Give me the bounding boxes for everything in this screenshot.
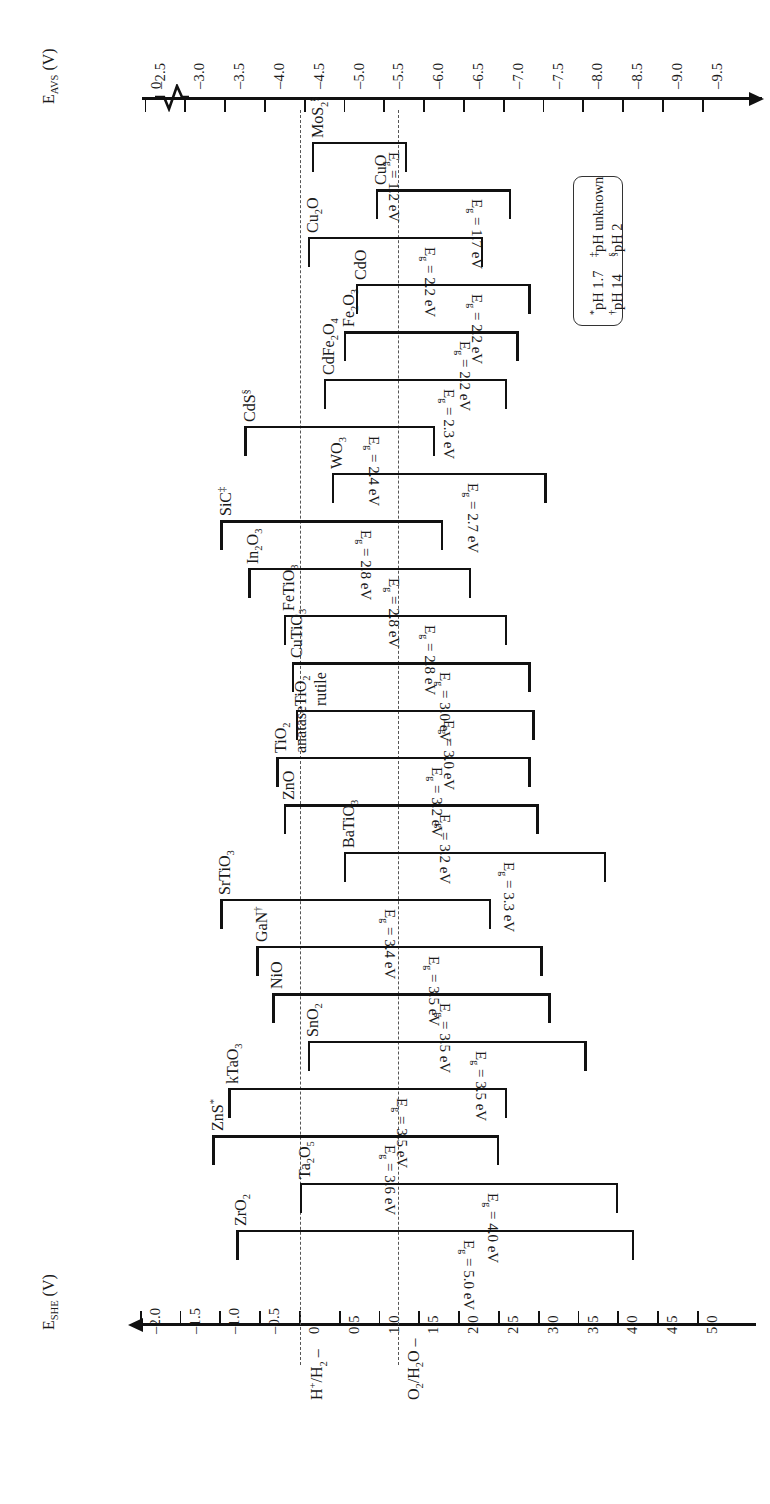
bottom-axis-tick-label: 2.5 (505, 1315, 522, 1334)
band-rail (284, 615, 507, 617)
band-material-label: Ta2O5 (296, 1141, 316, 1179)
band-rail (292, 662, 531, 664)
band-rail (344, 852, 607, 854)
bottom-axis-tick-label: –2.0 (147, 1308, 164, 1334)
valence-band-edge-stub (540, 946, 542, 976)
bottom-axis-tick (578, 1311, 580, 1324)
valence-band-edge-stub (548, 993, 550, 1023)
top-axis-tick-label: –3.5 (231, 63, 248, 89)
bottom-axis-tick-label: –1.0 (226, 1308, 243, 1334)
band-material-label: CdO (352, 250, 370, 280)
valence-band-edge-stub (528, 662, 530, 692)
top-axis-tick (224, 99, 226, 112)
conduction-band-edge-stub (344, 331, 346, 361)
legend-item: §pH 2 (607, 223, 626, 257)
band-material-label: GaN† (252, 907, 271, 942)
top-axis-tick (344, 99, 346, 112)
band-rail (308, 1041, 587, 1043)
top-axis-tick (622, 99, 624, 112)
top-axis-tick (383, 99, 385, 112)
top-axis-tick (702, 99, 704, 112)
legend-item: ‡pH unknown (588, 177, 607, 257)
conduction-band-edge-stub (312, 142, 314, 172)
top-axis-tick-label: –6.0 (430, 63, 447, 89)
band-gap-label: Eg = 3.3 eV (498, 862, 517, 932)
oxygen-redox-line (398, 110, 399, 1365)
band-gap-label: Eg = 3.5 eV (470, 1051, 489, 1121)
valence-band-edge-stub (505, 615, 507, 645)
conduction-band-edge-stub (284, 615, 286, 645)
valence-band-edge-stub (532, 710, 534, 740)
band-material-label: In2O3 (244, 528, 264, 563)
band-gap-label: Eg = 2.4 eV (363, 436, 382, 506)
bottom-axis-tick (140, 1311, 142, 1324)
band-gap-label: Eg = 2.3 eV (438, 389, 457, 459)
band-material-label: CdFe2O4 (320, 318, 340, 375)
conduction-band-edge-stub (344, 852, 346, 882)
band-rail (332, 473, 547, 475)
top-axis-tick (662, 99, 664, 112)
top-axis-title: EAVS (V) (40, 48, 60, 104)
bottom-axis-tick-label: 5.0 (704, 1315, 721, 1334)
top-axis-tick-label: –5.5 (390, 63, 407, 89)
conduction-band-edge-stub (220, 899, 222, 929)
band-gap-label: Eg = 2.8 eV (383, 578, 402, 648)
conduction-band-edge-stub (256, 946, 258, 976)
band-material-label: BaTiO3 (340, 799, 360, 847)
valence-band-edge-stub (528, 757, 530, 787)
bottom-axis-tick (379, 1311, 381, 1324)
conduction-band-edge-stub (376, 189, 378, 219)
band-rail (228, 1088, 507, 1090)
bottom-axis-tick (697, 1311, 699, 1324)
top-axis-tick-label: –9.5 (709, 63, 726, 89)
band-material-label: SiC‡ (216, 487, 235, 516)
band-rail (256, 946, 543, 948)
valence-band-edge-stub (505, 1088, 507, 1118)
band-material-label: Cu2O (304, 197, 324, 232)
band-rail (220, 520, 443, 522)
band-rail (344, 331, 519, 333)
bottom-axis-tick-label: 3.5 (585, 1315, 602, 1334)
valence-band-edge-stub (536, 804, 538, 834)
hydrogen-redox-label: H+/H2 – (307, 1349, 329, 1400)
top-axis-tick-label: –8.5 (629, 63, 646, 89)
valence-band-edge-stub (632, 1230, 634, 1260)
conduction-band-edge-stub (236, 1230, 238, 1260)
bottom-axis-tick (180, 1311, 182, 1324)
band-gap-label: Eg = 4.0 eV (482, 1193, 501, 1263)
band-material-label: CuTiO3 (288, 609, 308, 658)
conduction-band-edge-stub (276, 757, 278, 787)
conduction-band-edge-stub (228, 1088, 230, 1118)
band-material-label: ZnS* (208, 1099, 227, 1131)
band-rail (376, 189, 511, 191)
top-axis-line (142, 97, 762, 100)
band-gap-label: Eg = 2.2 eV (419, 247, 438, 317)
band-rail (244, 426, 435, 428)
band-material-label: SrTiO3 (216, 850, 236, 895)
band-rail (296, 710, 535, 712)
conduction-band-edge-stub (308, 1041, 310, 1071)
legend-item: †pH 14 (607, 274, 626, 315)
band-material-label: NiO (268, 962, 286, 990)
legend-item: *pH 1.7 (588, 271, 607, 315)
top-axis-tick-label: –2.5 (152, 63, 169, 89)
bottom-axis-tick-label: 3.0 (545, 1315, 562, 1334)
bottom-axis-tick (617, 1311, 619, 1324)
bottom-axis-tick (498, 1311, 500, 1324)
conduction-band-edge-stub (248, 568, 250, 598)
valence-band-edge-stub (584, 1041, 586, 1071)
top-axis-tick (184, 99, 186, 112)
top-axis-tick-label: –3.0 (191, 63, 208, 89)
valence-band-edge-stub (433, 426, 435, 456)
bottom-axis-title: ESHE (V) (40, 1274, 60, 1330)
band-material-label: ZnO (280, 771, 298, 800)
top-axis-tick-label: –5.0 (351, 63, 368, 89)
top-axis-tick (582, 99, 584, 112)
top-axis-tick-label: –9.0 (669, 63, 686, 89)
conduction-band-edge-stub (212, 1135, 214, 1165)
conduction-band-edge-stub (272, 993, 274, 1023)
band-material-label: kTaO3 (224, 1043, 244, 1084)
conduction-band-edge-stub (332, 473, 334, 503)
top-axis-tick (423, 99, 425, 112)
valence-band-edge-stub (469, 568, 471, 598)
